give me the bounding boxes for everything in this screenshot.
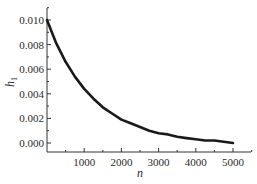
data-line-h1 xyxy=(47,20,233,143)
y-tick-label: 0.008 xyxy=(19,39,44,51)
y-axis-label-subscript: 1 xyxy=(10,77,19,81)
x-tick-label: 1000 xyxy=(73,156,96,168)
y-tick-label: 0.006 xyxy=(19,63,44,75)
x-tick-label: 3000 xyxy=(148,156,171,168)
x-tick-label: 4000 xyxy=(185,156,208,168)
chart: 0.0000.0020.0040.0060.0080.010 100020003… xyxy=(0,0,257,184)
x-tick-label: 5000 xyxy=(222,156,245,168)
y-tick-label: 0.010 xyxy=(19,14,44,26)
y-ticks: 0.0000.0020.0040.0060.0080.010 xyxy=(19,8,51,149)
svg-text:h1: h1 xyxy=(3,77,19,87)
x-axis-label: n xyxy=(137,166,143,180)
y-tick-label: 0.002 xyxy=(19,112,44,124)
y-tick-label: 0.000 xyxy=(19,137,44,149)
y-axis-label: h1 xyxy=(3,77,19,87)
y-tick-label: 0.004 xyxy=(19,88,44,100)
x-tick-label: 2000 xyxy=(110,156,133,168)
x-ticks: 10002000300040005000 xyxy=(66,148,252,168)
